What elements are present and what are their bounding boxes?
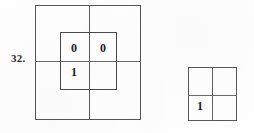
figure-a-inner-cell-bottom-left-digit: 1 bbox=[67, 66, 81, 78]
figure-b-horizontal-divider bbox=[188, 95, 237, 96]
figure-a-inner-cell-top-left-digit: 0 bbox=[67, 42, 81, 54]
figure-b-cell-bottom-left-digit: 1 bbox=[193, 100, 207, 112]
problem-number-label: 32. bbox=[11, 52, 25, 64]
figure-a-inner-cell-top-right-digit: 0 bbox=[96, 42, 110, 54]
figure-a-inner-square bbox=[60, 32, 117, 90]
figure-page: 32. 0 0 1 1 bbox=[0, 0, 254, 133]
figure-b-vertical-divider bbox=[212, 67, 213, 121]
